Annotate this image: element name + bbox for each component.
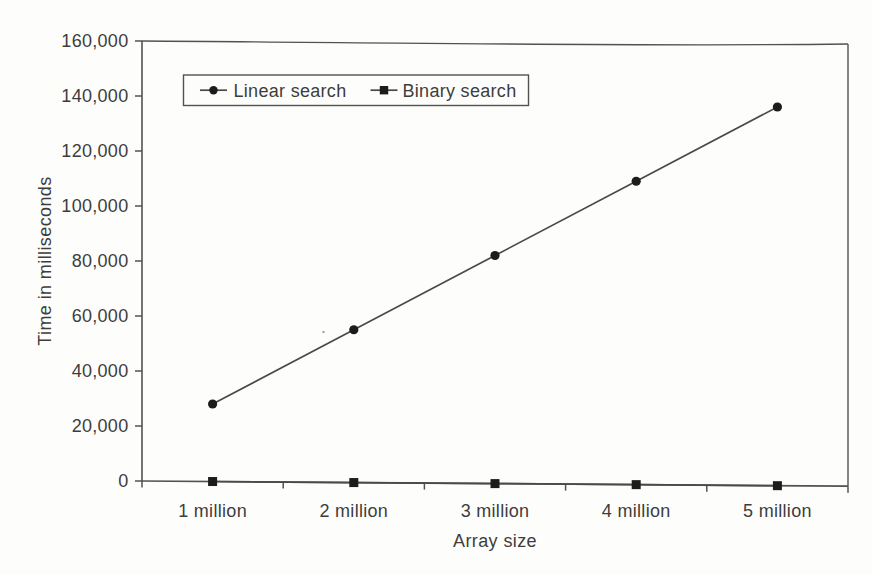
y-tick-label: 120,000 [61,141,128,161]
marker-binary-search-2 [491,479,500,488]
marker-binary-search-3 [632,480,641,489]
y-tick-label: 100,000 [61,196,128,216]
x-axis-title: Array size [453,531,537,552]
y-axis-title: Time in milliseconds [35,176,56,345]
x-category-label: 3 million [461,501,530,521]
marker-linear-search-3 [632,177,641,186]
legend-label: Binary search [403,81,517,101]
x-category-label: 4 million [602,501,671,521]
marker-linear-search-2 [490,251,499,260]
scan-artifact-speck [322,331,325,333]
y-tick-label: 60,000 [72,306,129,326]
x-category-label: 5 million [743,501,812,521]
x-category-label: 2 million [319,501,388,521]
y-tick-label: 80,000 [72,251,129,271]
y-tick-label: 160,000 [61,31,128,51]
y-tick-label: 40,000 [72,361,129,381]
marker-binary-search-4 [773,481,782,490]
y-tick-label: 140,000 [61,86,128,106]
marker-binary-search-1 [349,478,358,487]
legend-square-marker-icon [380,86,388,94]
marker-linear-search-4 [773,102,782,111]
scanned-line-chart-figure: 020,00040,00060,00080,000100,000120,0001… [0,0,872,574]
legend-circle-marker-icon [209,86,217,94]
plot-frame-top [142,41,848,45]
y-tick-label: 20,000 [72,416,129,436]
legend-label: Linear search [234,81,347,101]
legend: Linear searchBinary search [184,75,529,106]
x-category-label: 1 million [178,501,247,521]
chart-canvas: 020,00040,00060,00080,000100,000120,0001… [0,0,872,574]
marker-binary-search-0 [208,477,217,486]
y-tick-label: 0 [118,471,128,491]
marker-linear-search-0 [208,399,217,408]
marker-linear-search-1 [349,325,358,334]
